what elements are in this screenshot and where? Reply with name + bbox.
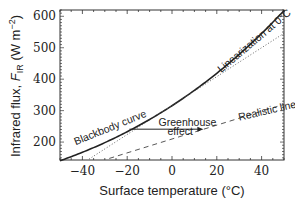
y-tick-label: 400: [33, 72, 56, 86]
x-tick-label: −40: [70, 164, 95, 178]
y-tick-label: 500: [33, 41, 56, 55]
annotations: Blackbody curveLinearization at 0°CReali…: [72, 6, 295, 147]
annotation-realistic-linearization: Realistic linearization: [237, 89, 295, 123]
x-tick-label: −20: [115, 164, 140, 178]
x-axis-title: Surface temperature (°C): [99, 183, 244, 198]
y-tick-label: 200: [33, 135, 56, 149]
x-tick-label: 20: [209, 164, 224, 178]
tick-labels: −40−2002040200300400500600: [33, 9, 269, 178]
chart: −40−2002040200300400500600 Blackbody cur…: [0, 0, 295, 201]
y-tick-label: 300: [33, 104, 56, 118]
annotation-linearization-at-0-c: Linearization at 0°C: [215, 6, 293, 74]
x-tick-label: 40: [254, 164, 269, 178]
x-tick-label: 0: [168, 164, 176, 178]
y-tick-label: 600: [33, 9, 56, 23]
annotation-effect: effect: [168, 125, 194, 137]
y-axis-title: Infrared flux, FIR (W m−2): [7, 15, 25, 157]
